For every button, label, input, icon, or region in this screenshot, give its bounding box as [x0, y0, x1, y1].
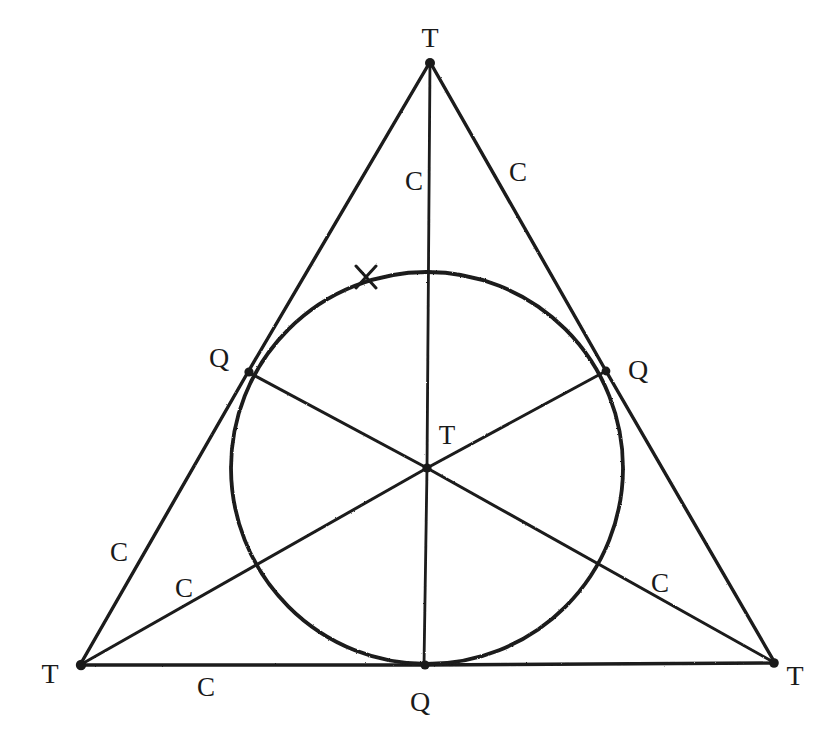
vertex-label-bottom-left: T — [41, 660, 58, 688]
vertex-dot-icon — [76, 660, 86, 670]
vertex-dot-icon — [769, 658, 779, 668]
tangent-label-left: Q — [209, 344, 229, 372]
triangle-side-right — [430, 62, 775, 663]
segment-label-bottom: C — [197, 674, 215, 701]
segment-label-left-inner: C — [175, 575, 193, 602]
segment-label-right-inner: C — [651, 570, 669, 597]
tangent-label-bottom: Q — [410, 688, 430, 716]
incenter-label: T — [439, 422, 456, 449]
segment-label-top-middle: C — [405, 168, 423, 195]
vertex-label-top: T — [421, 24, 438, 52]
triangle-side-left — [80, 62, 430, 665]
geometry-figure: T T T Q Q Q T C C C C C C — [0, 0, 831, 756]
cevian-bottomright-to-leftQ — [248, 372, 775, 663]
tangent-dot-icon — [244, 367, 253, 376]
figure-canvas — [0, 0, 831, 756]
tangent-label-right: Q — [628, 356, 648, 384]
vertex-label-bottom-right: T — [786, 662, 803, 690]
tangent-dot-icon — [420, 660, 429, 669]
tangent-dot-icon — [602, 367, 611, 376]
segment-label-top-right: C — [509, 159, 527, 186]
vertex-dot-icon — [425, 58, 435, 68]
segment-label-left-outer: C — [110, 539, 128, 566]
incenter-dot-icon — [422, 463, 431, 472]
cevian-bottomleft-to-rightQ — [80, 371, 606, 665]
x-mark-icon — [356, 266, 376, 288]
cevian-apex-to-bottom — [424, 62, 430, 665]
